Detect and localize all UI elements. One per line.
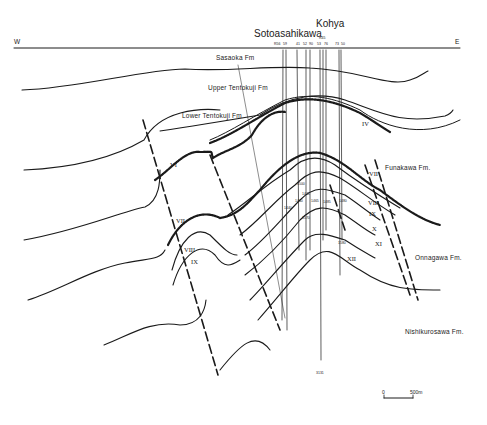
well-label: 50 <box>341 43 345 47</box>
scale-bar-end-label: 500m <box>410 390 423 395</box>
horizon-vii-left-label: VII <box>176 218 185 225</box>
horizon-xii-label: XII <box>347 256 356 263</box>
funakawa-formation-label: Funakawa Fm. <box>385 165 430 172</box>
depth-mark: 1440 <box>295 200 303 204</box>
horizon-viii-right-label: VIII <box>368 200 379 207</box>
sotoasahikawa-label: Sotoasahikawa <box>254 29 322 39</box>
depth-mark: 1485 <box>323 201 331 205</box>
sasaoka-formation-label: Sasaoka Fm <box>216 55 255 62</box>
depth-mark: 1570 <box>302 217 310 221</box>
horizon-vii-right-label: VII <box>369 171 378 178</box>
depth-mark: 1500 <box>297 183 305 187</box>
depth-mark: 1445 <box>302 193 310 197</box>
well-label: R56 <box>274 43 280 47</box>
well-label: 73 <box>335 43 339 47</box>
west-label: W <box>14 39 20 46</box>
cross-section-figure: W E Sotoasahikawa Kohya R56 59 41 52 90 … <box>0 0 487 425</box>
well-label: 53 <box>317 43 321 47</box>
well-label: 76 <box>324 43 328 47</box>
cross-section-drawing <box>0 0 487 425</box>
horizon-viii-left-label: VIII <box>184 247 195 254</box>
east-label: E <box>455 39 460 46</box>
well-label: 90 <box>309 43 313 47</box>
depth-mark: 1440 <box>284 207 292 211</box>
lower-tentokuji-formation-label: Lower Tentokuji Fm <box>182 113 242 120</box>
well-label: R45 <box>319 37 325 41</box>
well-label: 52 <box>303 43 307 47</box>
upper-tentokuji-formation-label: Upper Tentokuji Fm <box>208 85 268 92</box>
depth-mark: 1580 <box>338 242 346 246</box>
horizon-x-label: X <box>372 226 377 233</box>
horizon-ix-left-label: IX <box>191 259 198 266</box>
nishikurosawa-formation-label: Nishikurosawa Fm. <box>405 329 464 336</box>
kohya-label: Kohya <box>316 19 344 29</box>
horizon-iv-label: IV <box>362 121 369 128</box>
depth-mark: 1465 <box>311 200 319 204</box>
horizon-xi-label: XI <box>375 241 382 248</box>
onnagawa-formation-label: Onnagawa Fm. <box>415 255 462 262</box>
scale-bar-start-label: 0 <box>382 390 385 395</box>
horizon-vi-label: VI <box>170 162 177 169</box>
horizon-ix-right-label: IX <box>369 211 376 218</box>
depth-mark: 1480 <box>339 200 347 204</box>
well-label: 59 <box>283 43 287 47</box>
well-label: 41 <box>296 43 300 47</box>
depth-mark: 3131 <box>316 372 324 376</box>
